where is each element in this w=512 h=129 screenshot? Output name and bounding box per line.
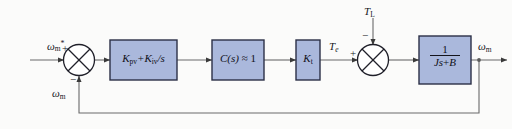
output-omega-symbol: ω: [478, 40, 486, 52]
feedback-omega-symbol: ω: [52, 87, 60, 99]
torque-e-subscript: e: [335, 45, 338, 54]
output-subscript: m: [486, 45, 492, 54]
signal-label-feedback-speed: ωm: [52, 88, 66, 100]
sign-speed-error-positive: +: [62, 43, 68, 54]
reference-omega-symbol: ω: [47, 40, 55, 52]
block-plant: [419, 36, 471, 84]
summing-junction-torque-sum: [358, 45, 389, 76]
feedback-tap-node: [477, 58, 481, 62]
signal-label-output-speed: ωm: [478, 41, 492, 53]
sign-speed-error-negative: −: [70, 74, 76, 85]
sign-torque-sum-negative: −: [362, 30, 368, 41]
block-torque-constant: [296, 40, 320, 80]
feedback-subscript: m: [60, 92, 66, 101]
block-pi-controller: [110, 40, 177, 80]
block-diagram: Kpv+Kiv/s C(s) ≈ 1 Kt 1 Js+B ωm* ωm Te T…: [0, 0, 512, 129]
signal-label-electromagnetic-torque: Te: [329, 41, 338, 53]
block-converter: [212, 40, 264, 80]
diagram-canvas: [0, 0, 512, 129]
torque-load-subscript: L: [370, 10, 375, 19]
sign-torque-sum-positive: +: [350, 48, 356, 59]
signal-label-load-torque: TL: [364, 6, 375, 18]
